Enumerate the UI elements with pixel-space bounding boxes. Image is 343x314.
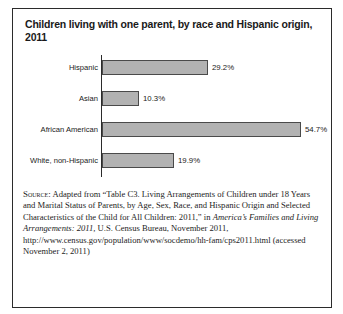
bar-category-label: Hispanic [13, 63, 101, 72]
figure-container: Children living with one parent, by race… [12, 8, 332, 308]
bar-value-label: 54.7% [305, 125, 327, 134]
bar-track: 10.3% [102, 84, 331, 112]
bar-value-label: 29.2% [212, 63, 234, 72]
table-row: White, non-Hispanic 19.9% [13, 146, 331, 174]
bar-track: 29.2% [102, 53, 331, 81]
bar-chart: Hispanic 29.2% Asian 10.3% African Ameri… [13, 53, 331, 179]
bar-value-label: 19.9% [178, 156, 200, 165]
bar-value-label: 10.3% [143, 94, 165, 103]
source-label: Source: [23, 189, 51, 199]
bar-category-label: White, non-Hispanic [13, 156, 101, 165]
bar-hispanic [102, 60, 208, 75]
bar-white-non-hispanic [102, 153, 174, 168]
table-row: African American 54.7% [13, 115, 331, 143]
bar-track: 19.9% [102, 146, 331, 174]
bar-african-american [102, 122, 301, 137]
chart-rows: Hispanic 29.2% Asian 10.3% African Ameri… [13, 53, 331, 179]
bar-category-label: African American [13, 125, 101, 134]
table-row: Hispanic 29.2% [13, 53, 331, 81]
table-row: Asian 10.3% [13, 84, 331, 112]
figure-title: Children living with one parent, by race… [25, 18, 319, 44]
bar-track: 54.7% [102, 115, 331, 143]
bar-asian [102, 91, 139, 106]
source-note: Source: Adapted from “Table C3. Living A… [23, 189, 321, 257]
bar-category-label: Asian [13, 94, 101, 103]
